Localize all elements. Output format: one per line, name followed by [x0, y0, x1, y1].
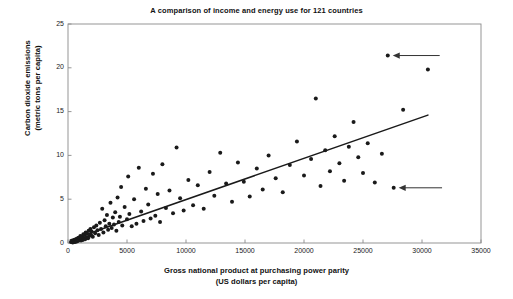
data-point	[328, 169, 332, 173]
upper-arrow-head	[393, 52, 400, 58]
data-point	[167, 188, 171, 192]
data-point	[96, 228, 100, 232]
chart-figure: A comparison of income and energy use fo…	[0, 0, 513, 299]
x-axis-tick-label: 15000	[215, 247, 275, 254]
data-point	[261, 188, 265, 192]
y-axis-title: Carbon dioxide emissions (metric tons pe…	[23, 8, 43, 168]
scatter-points-group	[69, 54, 430, 245]
data-point	[94, 223, 98, 227]
data-point	[323, 148, 327, 152]
data-point	[386, 54, 390, 58]
data-point	[267, 153, 271, 157]
data-point	[309, 157, 313, 161]
data-point	[114, 229, 118, 233]
data-point	[314, 96, 318, 100]
data-point	[108, 201, 112, 205]
data-point	[127, 212, 131, 216]
data-point	[295, 139, 299, 143]
data-point	[281, 190, 285, 194]
data-point	[132, 197, 136, 201]
data-point	[255, 167, 259, 171]
y-axis-tick-label: 20	[26, 63, 64, 70]
x-axis-title: Gross national product at purchasing pow…	[0, 266, 513, 287]
data-point	[149, 216, 153, 220]
y-axis-title-line1: Carbon dioxide emissions	[23, 40, 32, 136]
data-point	[113, 210, 117, 214]
data-point	[337, 161, 341, 165]
x-axis-tick-label: 0	[38, 247, 98, 254]
data-point	[153, 214, 157, 218]
data-point	[139, 209, 143, 213]
data-point	[98, 221, 102, 225]
data-point	[224, 181, 228, 185]
data-point	[125, 217, 129, 221]
data-point	[171, 211, 175, 215]
data-point	[202, 207, 206, 211]
data-point	[274, 176, 278, 180]
data-point	[137, 166, 141, 170]
y-axis-title-line2: (metric tons per capita)	[33, 45, 42, 130]
data-point	[90, 230, 94, 234]
data-point	[333, 134, 337, 138]
annotation-arrow	[399, 185, 442, 191]
data-point	[158, 220, 162, 224]
data-point	[218, 151, 222, 155]
data-point	[373, 181, 377, 185]
data-point	[352, 120, 356, 124]
data-point	[119, 185, 123, 189]
data-point	[126, 174, 130, 178]
y-axis-tick-label: 25	[26, 20, 64, 27]
data-point	[191, 203, 195, 207]
data-point	[212, 194, 216, 198]
data-point	[142, 219, 146, 223]
annotation-arrow	[393, 52, 440, 58]
data-point	[164, 206, 168, 210]
data-point	[347, 145, 351, 149]
data-point	[104, 224, 108, 228]
data-point	[160, 162, 164, 166]
data-point	[248, 195, 252, 199]
x-axis-title-line2: (US dollars per capita)	[216, 277, 298, 286]
data-point	[91, 235, 95, 239]
data-point	[392, 186, 396, 190]
y-axis-tick-label: 5	[26, 195, 64, 202]
data-point	[156, 192, 160, 196]
data-point	[97, 233, 101, 237]
data-point	[107, 222, 111, 226]
data-point	[99, 227, 103, 231]
y-axis-tick-label: 10	[26, 151, 64, 158]
data-point	[178, 196, 182, 200]
data-point	[100, 207, 104, 211]
data-point	[302, 174, 306, 178]
data-point	[175, 146, 179, 150]
data-point	[106, 228, 110, 232]
x-axis-tick-label: 25000	[333, 247, 393, 254]
data-point	[111, 216, 115, 220]
data-point	[105, 213, 109, 217]
data-point	[117, 220, 121, 224]
data-point	[342, 179, 346, 183]
data-point	[196, 183, 200, 187]
data-point	[101, 230, 105, 234]
data-point	[120, 223, 124, 227]
data-point	[182, 209, 186, 213]
data-point	[103, 218, 107, 222]
x-axis-tick-label: 30000	[392, 247, 452, 254]
data-point	[144, 187, 148, 191]
data-point	[146, 202, 150, 206]
data-point	[110, 226, 114, 230]
x-axis-title-line1: Gross national product at purchasing pow…	[164, 266, 349, 275]
data-point	[242, 180, 246, 184]
data-point	[230, 200, 234, 204]
data-point	[380, 152, 384, 156]
data-point	[116, 195, 120, 199]
data-point	[123, 205, 127, 209]
plot-frame	[68, 24, 481, 243]
data-point	[366, 141, 370, 145]
lower-arrow-head	[399, 185, 406, 191]
data-point	[130, 224, 134, 228]
data-point	[288, 163, 292, 167]
x-axis-tick-label: 35000	[451, 247, 511, 254]
regression-line	[70, 115, 428, 240]
data-point	[208, 170, 212, 174]
